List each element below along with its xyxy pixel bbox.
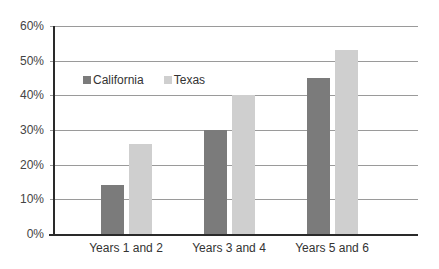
bar-texas	[129, 144, 152, 234]
x-tick-label: Years 3 and 4	[169, 241, 289, 255]
y-tick-label: 30%	[4, 124, 44, 136]
x-axis-line	[49, 234, 418, 236]
legend-swatch-texas	[164, 76, 172, 84]
y-tick-label: 10%	[4, 193, 44, 205]
y-axis-line	[53, 26, 55, 235]
y-tick-label: 50%	[4, 55, 44, 67]
legend-item-texas: Texas	[164, 73, 205, 87]
y-tick-label: 40%	[4, 89, 44, 101]
y-tick-label: 20%	[4, 159, 44, 171]
y-tick-label: 0%	[4, 228, 44, 240]
bar-california	[204, 130, 227, 234]
legend: California Texas	[83, 73, 225, 87]
bar-chart: 0%10%20%30%40%50%60% Years 1 and 2Years …	[0, 0, 439, 269]
legend-label-texas: Texas	[174, 73, 205, 87]
y-tick-label: 60%	[4, 20, 44, 32]
gridline	[50, 26, 418, 27]
x-tick-label: Years 5 and 6	[272, 241, 392, 255]
legend-item-california: California	[83, 73, 144, 87]
bar-california	[307, 78, 330, 234]
legend-label-california: California	[93, 73, 144, 87]
bar-texas	[232, 95, 255, 234]
gridline	[50, 61, 418, 62]
legend-swatch-california	[83, 76, 91, 84]
bar-texas	[335, 50, 358, 234]
bar-california	[101, 185, 124, 234]
x-tick-label: Years 1 and 2	[66, 241, 186, 255]
